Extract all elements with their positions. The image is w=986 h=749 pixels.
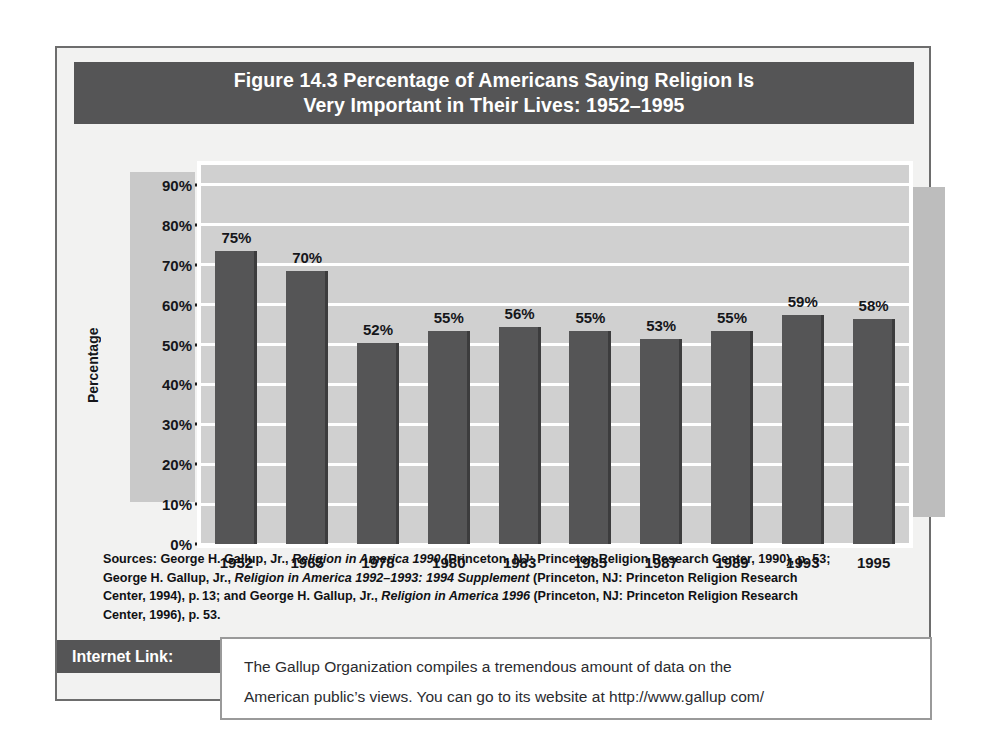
y-axis-tick-label: 90% <box>162 176 192 193</box>
y-axis-title: Percentage <box>83 305 103 425</box>
bar-slot: 58% <box>838 165 909 544</box>
sources-line: Center, 1994), p. 13; and George H. Gall… <box>103 587 893 606</box>
internet-link-row: Internet Link: The Gallup Organization c… <box>57 640 933 720</box>
bar-slot: 70% <box>272 165 343 544</box>
y-axis-tick-label: 70% <box>162 256 192 273</box>
bar-slot: 75% <box>201 165 272 544</box>
figure-card: Figure 14.3 Percentage of Americans Sayi… <box>55 46 931 701</box>
bar-value-label: 58% <box>859 297 889 314</box>
plot-area: 75%70%52%55%56%55%53%55%59%58% <box>197 161 913 548</box>
sources-line: Sources: George H. Gallup, Jr., Religion… <box>103 550 893 569</box>
y-axis-tick-label: 60% <box>162 296 192 313</box>
bar <box>853 319 895 544</box>
bar-slot: 59% <box>767 165 838 544</box>
bar <box>640 339 682 544</box>
bar-value-label: 56% <box>505 305 535 322</box>
sources-note: Sources: George H. Gallup, Jr., Religion… <box>103 550 893 624</box>
bar <box>569 331 611 544</box>
figure-title-line-2: Very Important in Their Lives: 1952–1995 <box>234 93 755 118</box>
sources-line: Center, 1996), p. 53. <box>103 606 893 625</box>
figure-title-text: Figure 14.3 Percentage of Americans Sayi… <box>234 68 755 119</box>
bar-value-label: 55% <box>575 309 605 326</box>
bar-slot: 55% <box>413 165 484 544</box>
bars-layer: 75%70%52%55%56%55%53%55%59%58% <box>201 165 909 544</box>
bar-value-label: 70% <box>292 249 322 266</box>
figure-title-banner: Figure 14.3 Percentage of Americans Sayi… <box>74 62 914 124</box>
bar-slot: 53% <box>626 165 697 544</box>
bar-value-label: 55% <box>434 309 464 326</box>
plot-inner: 75%70%52%55%56%55%53%55%59%58% <box>201 165 909 544</box>
y-axis-tick-label: 10% <box>162 496 192 513</box>
y-axis-ticks: 0%10%20%30%40%50%60%70%80%90% <box>130 185 202 503</box>
bar <box>428 331 470 544</box>
y-axis-tick-label: 50% <box>162 336 192 353</box>
internet-link-line-2: American public’s views. You can go to i… <box>244 682 930 712</box>
bar <box>782 315 824 544</box>
bar-value-label: 75% <box>221 229 251 246</box>
internet-link-line-1: The Gallup Organization compiles a treme… <box>244 652 930 682</box>
internet-link-box: The Gallup Organization compiles a treme… <box>220 637 932 720</box>
y-axis-tick-label: 20% <box>162 456 192 473</box>
bar-value-label: 52% <box>363 321 393 338</box>
bar-slot: 55% <box>555 165 626 544</box>
bar-slot: 56% <box>484 165 555 544</box>
sources-line: George H. Gallup, Jr., Religion in Ameri… <box>103 569 893 588</box>
bar-value-label: 53% <box>646 317 676 334</box>
y-axis-tick-label: 80% <box>162 216 192 233</box>
bar <box>357 343 399 544</box>
bar <box>215 251 257 544</box>
y-axis-tick-label: 30% <box>162 416 192 433</box>
y-axis-tick-label: 40% <box>162 376 192 393</box>
figure-title-line-1: Figure 14.3 Percentage of Americans Sayi… <box>234 68 755 93</box>
bar-value-label: 55% <box>717 309 747 326</box>
bar <box>286 271 328 544</box>
internet-link-tag: Internet Link: <box>57 640 229 673</box>
bar-value-label: 59% <box>788 293 818 310</box>
plot-right-decoration <box>913 187 945 517</box>
bar-slot: 55% <box>697 165 768 544</box>
bar <box>711 331 753 544</box>
bar-slot: 52% <box>343 165 414 544</box>
bar-chart: Percentage 0%10%20%30%40%50%60%70%80%90%… <box>87 155 917 595</box>
bar <box>499 327 541 544</box>
